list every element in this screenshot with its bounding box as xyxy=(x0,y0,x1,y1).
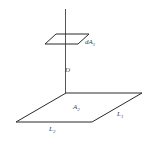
view-factor-diagram: dA1 D A2 L1 L2 xyxy=(0,0,152,150)
differential-area-dA1 xyxy=(45,34,89,44)
label-A2: A2 xyxy=(72,103,80,112)
label-L2: L2 xyxy=(48,125,56,134)
label-D: D xyxy=(64,66,70,74)
label-L1: L1 xyxy=(116,110,123,119)
label-dA1: dA1 xyxy=(85,38,95,47)
